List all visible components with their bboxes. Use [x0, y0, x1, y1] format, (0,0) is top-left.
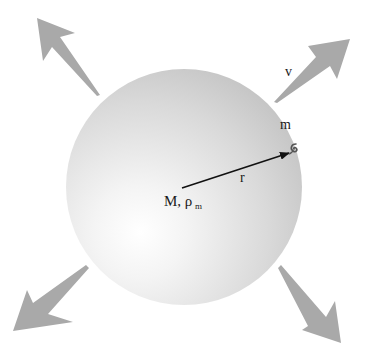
expansion-arrow-top-left-icon	[37, 18, 100, 96]
test-mass-label: m	[280, 117, 291, 132]
radius-label: r	[240, 170, 245, 185]
expansion-arrow-bottom-right-icon	[278, 265, 341, 343]
expanding-sphere-diagram: v m r M, ρ m	[0, 0, 366, 354]
central-mass-subscript: m	[195, 201, 202, 211]
velocity-label: v	[285, 64, 292, 79]
expansion-arrow-bottom-left-icon	[13, 265, 89, 331]
central-mass-label: M, ρ	[164, 193, 192, 209]
